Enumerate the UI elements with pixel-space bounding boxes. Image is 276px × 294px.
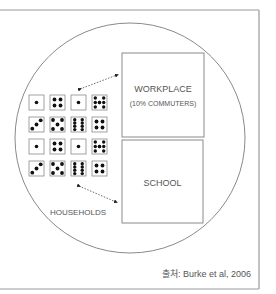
household-die xyxy=(92,95,107,110)
household-die xyxy=(29,95,44,110)
arrow-households-school xyxy=(79,186,116,202)
household-die xyxy=(50,139,65,154)
household-die xyxy=(92,117,107,132)
households-label: HOUSEHOLDS xyxy=(50,208,106,217)
household-die xyxy=(50,117,65,132)
workplace-label: WORKPLACE xyxy=(134,84,192,94)
arrow-households-workplace xyxy=(80,75,117,89)
household-die xyxy=(29,139,44,154)
household-die xyxy=(71,139,86,154)
workplace-sublabel: (10% COMMUTERS) xyxy=(130,100,197,108)
household-die xyxy=(71,117,86,132)
household-die xyxy=(50,95,65,110)
household-die xyxy=(29,117,44,132)
school-box: SCHOOL xyxy=(122,140,203,223)
workplace-box: WORKPLACE (10% COMMUTERS) xyxy=(122,53,204,137)
source-caption: 출처: Burke et al, 2006 xyxy=(162,268,251,279)
household-die xyxy=(71,95,86,110)
community-diagram: WORKPLACE (10% COMMUTERS) SCHOOL HOUSEHO… xyxy=(0,0,276,294)
households-dice-grid xyxy=(29,95,107,176)
household-die xyxy=(71,161,86,176)
household-die xyxy=(92,139,107,154)
household-die xyxy=(50,161,65,176)
household-die xyxy=(92,161,107,176)
household-die xyxy=(29,161,44,176)
school-label: SCHOOL xyxy=(143,178,181,188)
